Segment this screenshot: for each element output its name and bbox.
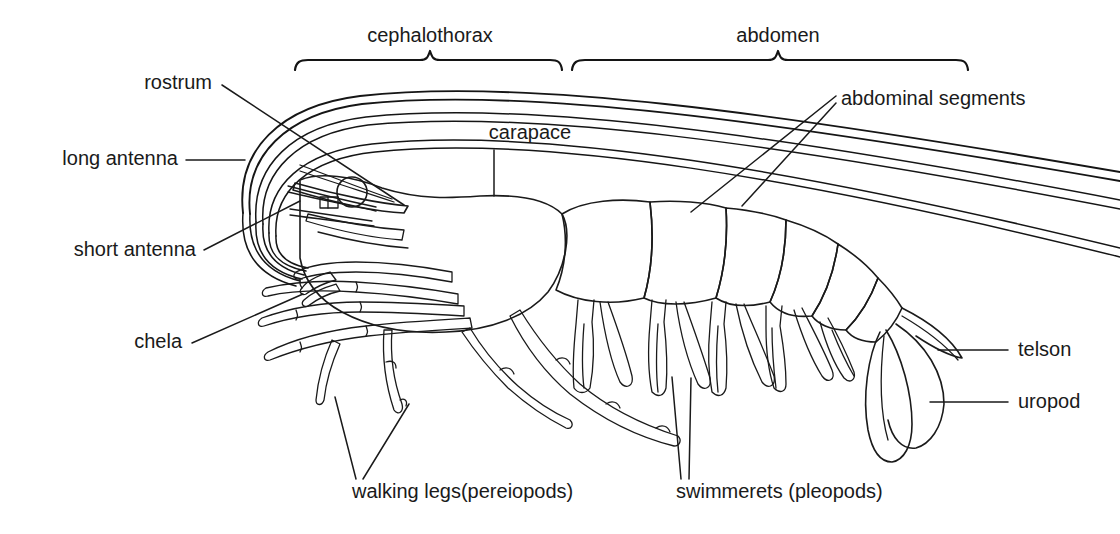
leader-short-antenna xyxy=(204,201,300,250)
label-telson: telson xyxy=(1018,338,1071,360)
long-antennae-group xyxy=(242,91,1120,257)
walking-legs-group xyxy=(258,262,680,446)
label-abdominal-segments: abdominal segments xyxy=(841,87,1026,109)
leader-swimmerets-2 xyxy=(689,378,691,479)
leader-chela xyxy=(192,294,303,343)
abdominal-segments-group xyxy=(556,200,902,342)
braces-group xyxy=(295,51,968,70)
uropod-lower xyxy=(866,330,912,462)
label-walking-legs: walking legs(pereiopods) xyxy=(351,480,573,502)
leader-walking-legs-1 xyxy=(335,397,356,479)
uropod-upper xyxy=(888,324,944,448)
label-rostrum: rostrum xyxy=(144,71,212,93)
antennae-basal-curves xyxy=(243,213,308,286)
tail-fan xyxy=(866,308,962,462)
brace-abdomen xyxy=(572,51,968,70)
label-uropod: uropod xyxy=(1018,390,1080,412)
leader-swimmerets-1 xyxy=(672,377,681,479)
leader-abdominal-segments-1 xyxy=(691,96,836,212)
label-swimmerets: swimmerets (pleopods) xyxy=(676,480,883,502)
label-carapace: carapace xyxy=(489,121,571,143)
leader-walking-legs-2 xyxy=(363,404,409,479)
label-short-antenna: short antenna xyxy=(74,238,197,260)
brace-cephalothorax xyxy=(295,51,562,70)
shrimp-anatomy-diagram: cephalothorax abdomen rostrum long anten… xyxy=(0,0,1120,534)
label-chela: chela xyxy=(134,330,183,352)
label-long-antenna: long antenna xyxy=(62,147,179,169)
brace-label-cephalothorax: cephalothorax xyxy=(367,24,493,46)
shrimp-illustration xyxy=(242,91,1120,462)
brace-label-abdomen: abdomen xyxy=(736,24,819,46)
